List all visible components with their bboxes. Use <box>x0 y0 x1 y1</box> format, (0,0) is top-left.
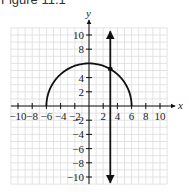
x-axis-label: x <box>177 99 183 111</box>
x-tick-label: −6 <box>41 110 53 122</box>
x-tick-label: −4 <box>55 110 67 122</box>
y-tick-label: 8 <box>79 43 85 55</box>
y-tick-label: −8 <box>72 157 84 169</box>
y-tick-label: −10 <box>67 171 85 183</box>
y-tick-label: 2 <box>79 86 85 98</box>
y-tick-label: −6 <box>72 143 84 155</box>
y-tick-label: −4 <box>72 128 84 140</box>
x-tick-label: −8 <box>26 110 38 122</box>
y-axis-label: y <box>85 7 91 19</box>
y-tick-label: 4 <box>79 72 85 84</box>
y-tick-label: 10 <box>73 29 85 41</box>
x-tick-label: −10 <box>9 110 27 122</box>
x-tick-label: 10 <box>155 110 167 122</box>
x-tick-label: 4 <box>115 110 121 122</box>
y-tick-label: −2 <box>72 114 84 126</box>
x-tick-label: 6 <box>129 110 135 122</box>
intersection-point <box>108 67 113 72</box>
x-tick-label: 2 <box>100 110 106 122</box>
x-tick-label: 8 <box>143 110 149 122</box>
chart-plot: xy−10−8−6−4−224681010842−2−4−6−8−10 <box>0 0 189 196</box>
